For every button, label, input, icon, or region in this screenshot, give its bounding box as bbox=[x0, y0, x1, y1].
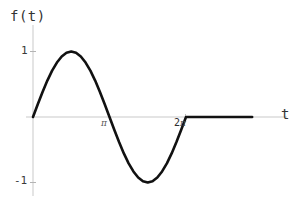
x-tick-label-pi: π bbox=[101, 119, 107, 128]
y-tick-label-negative-one: -1 bbox=[14, 175, 27, 186]
y-axis-label: f(t) bbox=[10, 9, 46, 23]
plot-canvas bbox=[0, 0, 303, 210]
x-axis-label: t bbox=[281, 107, 289, 121]
x-tick-label-two-pi-symbol: π bbox=[180, 118, 186, 128]
sine-function-plot: f(t) t 1 -1 π 2π bbox=[0, 0, 303, 210]
y-tick-label-positive-one: 1 bbox=[21, 45, 28, 56]
x-tick-label-two-pi: 2π bbox=[174, 118, 186, 128]
